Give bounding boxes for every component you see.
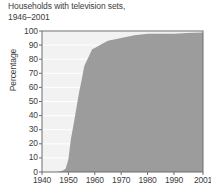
chart-figure: Households with television sets, 1946–20… [0, 0, 211, 194]
area-chart-svg [0, 0, 211, 194]
x-axis-tick-label: 1990 [159, 175, 189, 185]
x-axis-tick-label: 2001 [188, 175, 211, 185]
x-axis-tick-labels: 1940195019601970198019902001 [0, 175, 211, 189]
plot-area [0, 0, 211, 194]
